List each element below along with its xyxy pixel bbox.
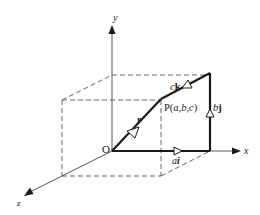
point-p-label: P(a,b,c) — [164, 102, 198, 114]
vector-r-label: r — [137, 114, 142, 125]
ck-arrow-icon — [182, 80, 192, 88]
x-axis-label: x — [243, 145, 249, 156]
y-axis-label: y — [112, 12, 118, 23]
r-arrow-icon — [127, 127, 139, 138]
ai-arrow-icon — [174, 147, 182, 155]
origin-label: O — [102, 143, 110, 155]
y-axis-arrow-icon — [109, 25, 116, 34]
z-axis-arrow-icon — [24, 188, 34, 197]
vector-bj-label: bj — [213, 102, 222, 113]
vector-diagram: y x z O P(a,b,c) r ck bj ai — [0, 0, 260, 215]
x-axis-arrow-icon — [232, 148, 241, 155]
vector-ai-label: ai — [172, 155, 180, 166]
z-axis — [24, 151, 112, 196]
y-axis — [109, 25, 116, 151]
z-axis-label: z — [16, 198, 21, 208]
vector-r — [112, 99, 161, 151]
vector-ck-label: ck — [170, 81, 181, 92]
